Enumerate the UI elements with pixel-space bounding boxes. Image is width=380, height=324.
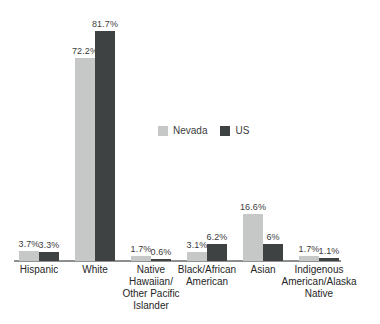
- value-label-us-5: 6%: [266, 232, 279, 242]
- bar-us-5: [263, 244, 283, 261]
- bar-nevada-3: [131, 256, 151, 261]
- value-label-nevada-1: 3.7%: [19, 239, 40, 249]
- bar-us-1: [39, 252, 59, 261]
- legend-swatch-us: [220, 126, 230, 136]
- bar-nevada-4: [187, 252, 207, 261]
- value-label-nevada-3: 1.7%: [131, 244, 152, 254]
- legend-item-nevada: Nevada: [158, 125, 207, 136]
- value-label-nevada-6: 1.7%: [299, 244, 320, 254]
- x-axis-line: [14, 260, 341, 262]
- bar-nevada-6: [299, 256, 319, 261]
- value-label-us-2: 81.7%: [92, 19, 118, 29]
- value-label-us-6: 1.1%: [319, 246, 340, 256]
- bar-us-6: [319, 258, 339, 261]
- bar-nevada-5: [243, 214, 263, 261]
- legend-item-us: US: [220, 125, 249, 136]
- bar-us-4: [207, 244, 227, 261]
- value-label-nevada-5: 16.6%: [240, 202, 266, 212]
- bar-nevada-2: [75, 58, 95, 261]
- legend-swatch-nevada: [158, 126, 168, 136]
- legend: Nevada US: [158, 125, 249, 136]
- legend-label-nevada: Nevada: [173, 125, 207, 136]
- value-label-nevada-4: 3.1%: [187, 240, 208, 250]
- value-label-us-1: 3.3%: [39, 240, 60, 250]
- value-label-us-4: 6.2%: [207, 232, 228, 242]
- bar-nevada-1: [19, 251, 39, 261]
- legend-label-us: US: [235, 125, 249, 136]
- bar-us-2: [95, 31, 115, 261]
- bar-us-3: [151, 259, 171, 261]
- bar-chart: Nevada US 3.7%72.2%1.7%3.1%16.6%1.7%3.3%…: [0, 0, 380, 324]
- value-label-us-3: 0.6%: [151, 247, 172, 257]
- category-label-6: IndigenousAmerican/AlaskaNative: [274, 264, 364, 300]
